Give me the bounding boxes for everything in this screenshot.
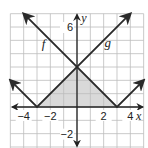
y-tick-label: −2 <box>60 128 73 140</box>
graph: −4−2246−2xyfg <box>0 0 148 148</box>
x-axis-label: x <box>135 109 142 123</box>
x-tick-label: 4 <box>127 110 133 122</box>
x-tick-label: 2 <box>101 110 107 122</box>
x-tick-label: −2 <box>44 110 57 122</box>
x-tick-label: −4 <box>17 110 30 122</box>
function-label-f: f <box>42 36 48 51</box>
y-axis-label: y <box>80 11 87 25</box>
y-tick-label: 6 <box>67 21 73 33</box>
function-label-g: g <box>104 35 111 50</box>
